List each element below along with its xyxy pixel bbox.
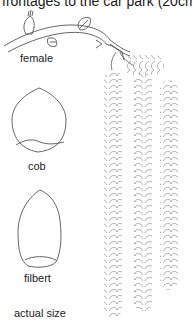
leaf-bud-icon: [78, 17, 91, 30]
cob-nut-drawing: [12, 88, 66, 152]
label-cob: cob: [28, 160, 46, 172]
label-filbert: filbert: [24, 272, 51, 284]
filbert-nut-drawing: [18, 190, 61, 267]
label-actual-size: actual size: [14, 307, 66, 319]
label-female: female: [20, 52, 53, 64]
catkins-drawing: [104, 52, 178, 318]
female-flower-icon: [24, 10, 34, 34]
leaf-bud-icon: [47, 38, 56, 47]
